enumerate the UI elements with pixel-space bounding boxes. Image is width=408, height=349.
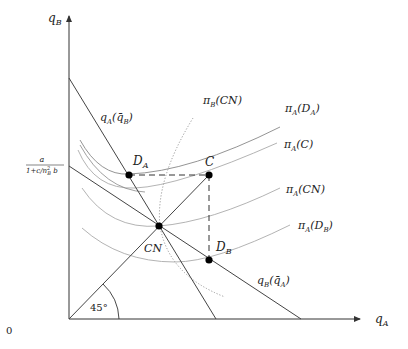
isoprofit-piA-DA — [80, 127, 280, 174]
point-DA — [125, 171, 132, 178]
svg-text:a: a — [40, 155, 45, 164]
piB-CN-label: πB(CN) — [202, 94, 242, 109]
point-C — [205, 171, 212, 178]
point-DB-label: DB — [215, 240, 232, 256]
point-CN — [155, 222, 162, 229]
point-CN-label: CN — [144, 242, 162, 255]
piA-DB-label: πA(DB) — [297, 219, 333, 234]
isoprofit-piB-CN — [159, 118, 225, 297]
isoprofit-piA-C — [78, 143, 277, 188]
reaction-B-label: qB(q̄A) — [257, 274, 290, 289]
point-C-label: C — [205, 155, 214, 169]
piA-CN-label: πA(CN) — [285, 183, 325, 198]
piA-C-label: πA(C) — [283, 138, 313, 153]
angle-label: 45° — [90, 302, 108, 313]
y-axis-label: qB — [48, 11, 62, 27]
reaction-line-B — [69, 166, 301, 319]
svg-text:1+c/n2B b: 1+c/n2B b — [26, 165, 58, 176]
reaction-line-A — [69, 78, 216, 319]
x-axis-label: qA — [375, 312, 389, 328]
point-DA-label: DA — [132, 154, 149, 170]
reaction-A-label: qA(q̄B) — [100, 111, 133, 126]
piA-DA-label: πA(DA) — [284, 102, 320, 117]
diagram-canvas: qB qA 0 a 1+c/n2B b 45° qA(q̄B) qB(q̄A) … — [0, 0, 408, 349]
origin-label: 0 — [6, 325, 12, 336]
y-intercept-label: a 1+c/n2B b — [26, 155, 64, 176]
point-DB — [205, 256, 212, 263]
line-45-degree — [69, 175, 209, 319]
